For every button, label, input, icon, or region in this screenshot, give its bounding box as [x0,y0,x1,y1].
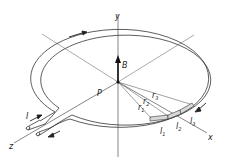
z-axis [14,82,118,143]
x-axis-label: x [207,133,213,142]
arrow-top-shaft [69,33,82,37]
axes [14,14,207,157]
arrow-in-head-icon [37,115,42,119]
center-point-p [116,80,119,83]
field-label-b: B [122,61,128,70]
radius-label-r2: r2 [143,97,149,107]
diagonal-line-upper-left [42,34,118,82]
current-label-i: I [26,112,29,121]
arrow-in-shaft [30,117,38,121]
lead-lower-outer [46,115,72,131]
y-axis-label: y [114,12,120,21]
center-label-p: P [97,89,102,98]
diagonal-line-upper-right [118,35,194,82]
lead-upper-outer [40,112,55,121]
field-vector-b [115,55,121,81]
diagram-canvas: y x z B P I r1 r2 r3 l1 l2 l3 [0,0,225,162]
segment-label-l2: l2 [176,122,181,132]
segment-l2 [168,110,181,119]
segment-label-l3: l3 [190,117,195,127]
current-loop-diagram: y x z B P I r1 r2 r3 l1 l2 l3 [0,0,225,162]
segment-label-l1: l1 [160,127,165,137]
b-arrow-head-icon [115,55,121,63]
z-axis-label: z [8,142,14,151]
arrow-out-head-icon [48,133,54,137]
radius-label-r3: r3 [152,91,158,101]
lead-lower-top [39,128,50,132]
arrow-top-head-icon [82,31,87,35]
